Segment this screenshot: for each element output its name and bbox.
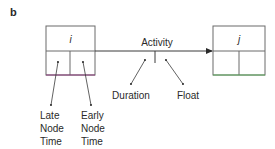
svg-text:Late: Late <box>40 110 60 121</box>
late-node-time-pointer <box>51 62 58 105</box>
duration-label: Duration <box>112 90 150 101</box>
svg-text:Time: Time <box>81 136 103 147</box>
node-i-label: i <box>69 34 72 45</box>
svg-text:Node: Node <box>40 123 64 134</box>
svg-text:Node: Node <box>81 123 105 134</box>
node-i: i <box>46 26 95 75</box>
svg-text:Early: Early <box>81 110 104 121</box>
float-label: Float <box>177 90 199 101</box>
diagram-svg: b i j Activity Duration Float Late Node … <box>0 0 275 149</box>
duration-pointer <box>131 60 145 84</box>
early-node-time-pointer <box>83 62 91 105</box>
network-diagram: b i j Activity Duration Float Late Node … <box>0 0 275 149</box>
panel-label: b <box>10 6 17 18</box>
svg-text:Time: Time <box>40 136 62 147</box>
node-j: j <box>213 26 265 75</box>
late-node-time-label: Late Node Time <box>40 110 64 147</box>
early-node-time-label: Early Node Time <box>81 110 105 147</box>
activity-label: Activity <box>141 37 173 48</box>
float-pointer <box>166 60 183 84</box>
node-j-label: j <box>236 34 241 45</box>
